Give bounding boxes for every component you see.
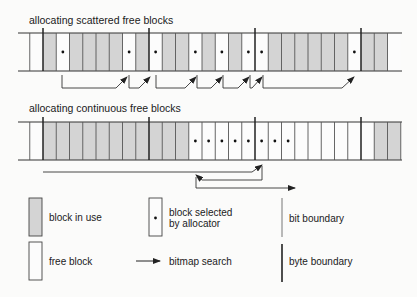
selected-dot-icon (247, 51, 250, 54)
selected-dot-icon (247, 140, 250, 143)
free-block (335, 122, 348, 160)
block-in-use (96, 122, 109, 160)
block-in-use (43, 33, 56, 71)
block-in-use (162, 33, 175, 71)
free-block (295, 122, 308, 160)
block-in-use (374, 33, 387, 71)
block-in-use (109, 33, 122, 71)
block-in-use (374, 122, 387, 160)
selected-dot-icon (353, 51, 356, 54)
block-in-use (282, 33, 295, 71)
selected-dot-icon (220, 140, 223, 143)
legend-selected-label-1: block selected (169, 207, 232, 218)
block-in-use (96, 33, 109, 71)
selected-dot-icon (207, 140, 210, 143)
selected-dot-icon (260, 51, 263, 54)
block-in-use (321, 33, 334, 71)
scattered-search-arrows (62, 75, 354, 88)
block-in-use (162, 122, 175, 160)
block-in-use (70, 33, 83, 71)
bitmap-diagram (0, 0, 417, 297)
block-in-use (268, 33, 281, 71)
legend-free-block-label: free block (49, 256, 92, 267)
block-in-use (43, 122, 56, 160)
legend-block-in-use-label: block in use (49, 212, 102, 223)
block-in-use (83, 33, 96, 71)
free-block (30, 33, 43, 71)
selected-dot-icon (194, 51, 197, 54)
selected-dot-icon (61, 51, 64, 54)
block-in-use (149, 122, 162, 160)
scattered-bitmap-strip (18, 28, 402, 71)
block-in-use (70, 122, 83, 160)
legend-free-block-swatch (29, 242, 42, 280)
continuous-bitmap-strip (18, 117, 402, 160)
selected-dot-icon (128, 51, 131, 54)
block-in-use (202, 33, 215, 71)
selected-dot-icon (154, 51, 157, 54)
block-in-use (176, 33, 189, 71)
legend-bitmap-search-label: bitmap search (169, 256, 232, 267)
block-in-use (136, 33, 149, 71)
selected-dot-icon (260, 140, 263, 143)
block-in-use (56, 122, 69, 160)
selected-dot-icon (234, 140, 237, 143)
legend-selected-label-2: by allocator (169, 218, 220, 229)
block-in-use (83, 122, 96, 160)
legend-block-in-use-swatch (29, 198, 42, 236)
block-in-use (361, 33, 374, 71)
free-block (308, 122, 321, 160)
block-in-use (123, 122, 136, 160)
block-in-use (388, 122, 401, 160)
legend-bit-boundary-label: bit boundary (289, 213, 344, 224)
block-in-use (176, 122, 189, 160)
block-in-use (295, 33, 308, 71)
block-in-use (229, 33, 242, 71)
selected-dot-icon (273, 140, 276, 143)
free-block (321, 122, 334, 160)
continuous-search-arrows (43, 165, 295, 188)
block-in-use (335, 33, 348, 71)
block-in-use (109, 122, 122, 160)
selected-dot-icon (287, 140, 290, 143)
selected-dot-icon (220, 51, 223, 54)
free-block (388, 33, 401, 71)
free-block (348, 122, 361, 160)
block-in-use (308, 33, 321, 71)
free-block (30, 122, 43, 160)
free-block (361, 122, 374, 160)
block-in-use (136, 122, 149, 160)
selected-dot-icon (194, 140, 197, 143)
selected-dot-icon (154, 217, 157, 220)
legend-byte-boundary-label: byte boundary (289, 256, 352, 267)
